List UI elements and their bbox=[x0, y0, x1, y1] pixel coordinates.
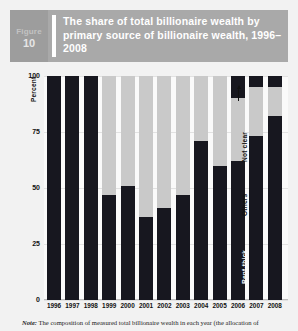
note-text: The composition of measured total billio… bbox=[37, 319, 259, 326]
bar-segment-rent-thick bbox=[139, 217, 153, 300]
bar-segment-others bbox=[139, 76, 153, 217]
figure-label: Figure bbox=[16, 27, 42, 37]
y-tick-label: 75 bbox=[18, 128, 40, 135]
figure-header: Figure 10 The share of total billionaire… bbox=[10, 10, 288, 62]
bar-segment-others bbox=[102, 76, 116, 195]
gridline bbox=[44, 300, 288, 301]
figure-note: Note: The composition of measured total … bbox=[22, 319, 294, 327]
bar-segment-others bbox=[157, 76, 171, 208]
bar-segment-rent-thick bbox=[102, 195, 116, 300]
bar-segment-rent-thick bbox=[268, 116, 282, 300]
bar-2000[interactable] bbox=[121, 76, 135, 300]
chart-container: Percent 0255075100 199619971998199920002… bbox=[0, 66, 298, 314]
figure-number-box: Figure 10 bbox=[10, 10, 48, 62]
bar-group bbox=[44, 76, 288, 300]
note-prefix: Note: bbox=[22, 319, 37, 326]
y-tick-label: 25 bbox=[18, 240, 40, 247]
bar-segment-rent-thick bbox=[84, 76, 98, 300]
bar-1998[interactable] bbox=[84, 76, 98, 300]
bar-2005[interactable] bbox=[213, 76, 227, 300]
bar-1999[interactable] bbox=[102, 76, 116, 300]
bar-2001[interactable] bbox=[139, 76, 153, 300]
bar-2004[interactable] bbox=[194, 76, 208, 300]
figure-number: 10 bbox=[23, 37, 35, 49]
y-tick-label: 100 bbox=[18, 72, 40, 79]
bar-segment-others bbox=[213, 76, 227, 166]
annotation-others: Others bbox=[241, 194, 248, 216]
bar-segment-others bbox=[121, 76, 135, 186]
bar-segment-rent-thick bbox=[249, 136, 263, 300]
x-tick-label-2008: 2008 bbox=[263, 302, 287, 309]
bar-segment-others bbox=[176, 76, 190, 195]
bar-2002[interactable] bbox=[157, 76, 171, 300]
bar-segment-rent-thick bbox=[121, 186, 135, 300]
bar-segment-rent-thick bbox=[194, 141, 208, 300]
bar-segment-not-clear bbox=[249, 76, 263, 87]
annotation-not-clear: Not clear bbox=[241, 132, 248, 162]
not-clear-arrow-icon bbox=[238, 88, 239, 101]
bar-segment-rent-thick bbox=[176, 195, 190, 300]
bar-segment-others bbox=[194, 76, 208, 141]
y-axis-label: Percent bbox=[30, 77, 37, 102]
bar-2008[interactable] bbox=[268, 76, 282, 300]
plot-area: Percent 0255075100 199619971998199920002… bbox=[44, 76, 288, 300]
y-tick-label: 50 bbox=[18, 184, 40, 191]
bar-1996[interactable] bbox=[47, 76, 61, 300]
y-tick-label: 0 bbox=[18, 296, 40, 303]
bar-segment-others bbox=[249, 87, 263, 136]
page-title: The share of total billionaire wealth by… bbox=[56, 10, 288, 62]
bar-segment-others bbox=[268, 87, 282, 116]
bar-segment-rent-thick bbox=[47, 76, 61, 300]
bar-2007[interactable] bbox=[249, 76, 263, 300]
bar-segment-rent-thick bbox=[65, 76, 79, 300]
bar-segment-rent-thick bbox=[157, 208, 171, 300]
bar-2003[interactable] bbox=[176, 76, 190, 300]
annotation-rent-thick: Rent-thick bbox=[241, 250, 248, 284]
bar-segment-not-clear bbox=[268, 76, 282, 87]
bar-segment-rent-thick bbox=[213, 166, 227, 300]
bar-1997[interactable] bbox=[65, 76, 79, 300]
